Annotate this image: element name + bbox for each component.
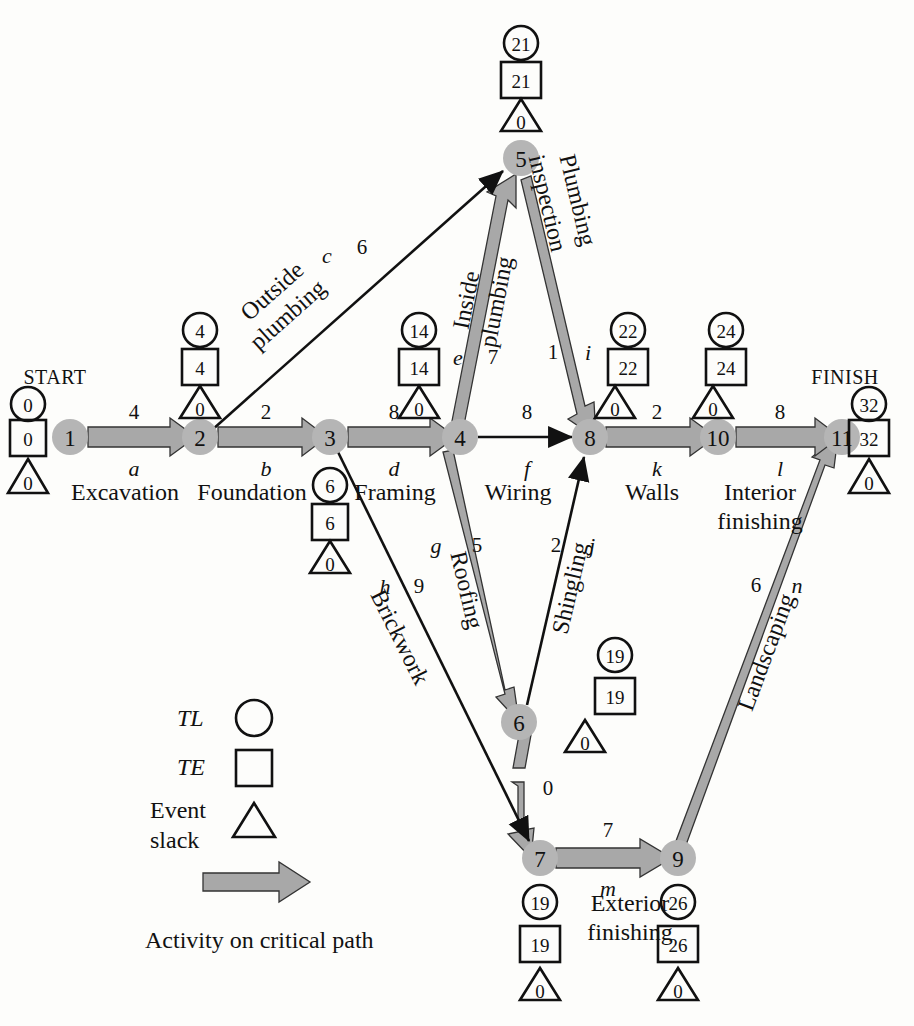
tl-value-node-5: 21 <box>512 34 531 55</box>
te-value-node-7: 19 <box>531 935 550 956</box>
duration-k: 2 <box>652 400 663 424</box>
node-2-label: 2 <box>194 426 206 451</box>
critical-arrow-d <box>348 418 456 456</box>
activity-name-d: Framing <box>354 479 435 505</box>
tl-value-node-2: 4 <box>195 321 205 342</box>
event-marker-node-3: 6 6 0 <box>310 468 350 575</box>
activity-name-l-line1: Interior <box>724 479 796 505</box>
finish-label: FINISH <box>811 366 878 388</box>
node-1[interactable]: 1 <box>52 419 88 455</box>
te-value-node-2: 4 <box>195 358 205 379</box>
slack-value-node-2: 0 <box>195 399 205 420</box>
te-value-node-8: 22 <box>619 358 638 379</box>
legend: TL TE Event slack Activity on critical p… <box>145 700 374 953</box>
node-10-label: 10 <box>707 426 730 451</box>
tl-value-node-3: 6 <box>325 476 335 497</box>
critical-arrow-a <box>88 418 196 456</box>
slack-value-node-9: 0 <box>673 981 683 1002</box>
slack-value-node-5: 0 <box>516 112 526 133</box>
node-1-label: 1 <box>64 426 76 451</box>
arrow-h <box>338 452 529 841</box>
duration-a: 4 <box>129 400 140 424</box>
activity-name-m-line2: finishing <box>587 919 672 945</box>
node-2[interactable]: 2 <box>182 419 218 455</box>
duration-dummy: 0 <box>543 776 554 800</box>
critical-arrow-b <box>218 418 327 456</box>
node-8[interactable]: 8 <box>572 419 608 455</box>
slack-value-node-11: 0 <box>864 473 874 494</box>
node-9[interactable]: 9 <box>660 840 696 876</box>
node-10[interactable]: 10 <box>700 419 736 455</box>
duration-b: 2 <box>261 400 272 424</box>
slack-value-node-4: 0 <box>414 399 424 420</box>
node-6[interactable]: 6 <box>501 704 537 740</box>
te-value-node-10: 24 <box>717 358 737 379</box>
node-11[interactable]: 11 <box>824 419 860 455</box>
duration-f: 8 <box>522 400 533 424</box>
tl-value-node-8: 22 <box>619 321 638 342</box>
activity-name-a: Excavation <box>71 479 179 505</box>
activity-id-f: f <box>524 456 533 481</box>
event-marker-node-8: 22 22 0 <box>595 313 648 420</box>
event-marker-node-7: 19 19 0 <box>520 885 560 1002</box>
activity-name-h: Brickwork <box>365 585 434 688</box>
activity-name-m-line1: Exterior <box>591 890 670 916</box>
legend-te-label: TE <box>177 754 205 780</box>
activity-id-b: b <box>261 456 272 481</box>
legend-tl-label: TL <box>177 705 204 731</box>
duration-j: 2 <box>551 533 562 557</box>
duration-c: 6 <box>357 235 368 259</box>
circle-icon <box>236 700 272 736</box>
event-marker-node-2: 4 4 0 <box>180 313 220 420</box>
activity-id-i: i <box>585 340 591 365</box>
node-3[interactable]: 3 <box>312 419 348 455</box>
node-7[interactable]: 7 <box>522 840 558 876</box>
triangle-icon <box>233 803 275 837</box>
duration-g: 5 <box>472 533 483 557</box>
slack-value-node-3: 0 <box>325 554 335 575</box>
event-marker-node-4: 14 14 0 <box>399 313 439 420</box>
slack-value-node-7: 0 <box>535 981 545 1002</box>
event-marker-node-10: 24 24 0 <box>693 313 746 420</box>
tl-value-node-6: 19 <box>606 646 625 667</box>
te-value-node-3: 6 <box>325 513 335 534</box>
activity-id-l: l <box>777 456 783 481</box>
slack-value-node-1: 0 <box>23 473 33 494</box>
activity-id-g: g <box>431 533 442 558</box>
activity-name-k: Walls <box>625 479 679 505</box>
slack-value-node-8: 0 <box>610 399 620 420</box>
duration-i: 1 <box>548 340 559 364</box>
activity-id-n: n <box>792 573 803 598</box>
te-value-node-5: 21 <box>512 71 531 92</box>
activity-name-b: Foundation <box>197 479 306 505</box>
legend-critical-label: Activity on critical path <box>145 927 374 953</box>
network-diagram-canvas: 1 2 3 4 5 6 7 8 9 10 11 0 0 0 4 4 0 6 6 … <box>0 0 914 1026</box>
node-7-label: 7 <box>534 847 546 872</box>
legend-slack-label-line1: Event <box>150 797 206 823</box>
activity-name-l-line2: finishing <box>717 508 802 534</box>
activity-name-f: Wiring <box>484 479 551 505</box>
te-value-node-1: 0 <box>23 429 33 450</box>
critical-arrow-m <box>556 839 672 877</box>
activity-id-a: a <box>129 456 140 481</box>
project-network-svg: 1 2 3 4 5 6 7 8 9 10 11 0 0 0 4 4 0 6 6 … <box>0 0 914 1026</box>
duration-d: 8 <box>389 400 400 424</box>
tl-value-node-7: 19 <box>531 893 550 914</box>
legend-slack-label-line2: slack <box>150 827 199 853</box>
tl-value-node-10: 24 <box>717 321 737 342</box>
node-8-label: 8 <box>584 426 596 451</box>
tl-value-node-4: 14 <box>410 321 430 342</box>
thick-gray-arrow-icon <box>203 862 310 902</box>
tl-value-node-9: 26 <box>669 893 688 914</box>
activity-id-c: c <box>322 243 332 268</box>
tl-value-node-1: 0 <box>23 395 33 416</box>
te-value-node-11: 32 <box>860 429 879 450</box>
node-9-label: 9 <box>672 847 684 872</box>
node-4[interactable]: 4 <box>442 419 478 455</box>
te-value-node-4: 14 <box>410 358 430 379</box>
square-icon <box>236 750 272 786</box>
tl-value-node-11: 32 <box>860 395 879 416</box>
te-value-node-6: 19 <box>606 687 625 708</box>
start-label: START <box>23 366 86 388</box>
duration-h: 9 <box>414 574 425 598</box>
